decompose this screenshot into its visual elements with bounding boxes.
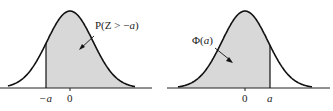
right-tick-zero: 0 [242, 92, 248, 104]
right-shaded-area [178, 11, 270, 88]
left-probability-label: P(Z > −a) [95, 19, 139, 31]
right-tick-a: a [267, 92, 273, 104]
right-normal-curve [167, 11, 330, 91]
left-tick-zero: 0 [67, 92, 73, 104]
right-phi-label: Φ(a) [192, 34, 213, 46]
left-tick-neg-a: −a [39, 92, 52, 104]
